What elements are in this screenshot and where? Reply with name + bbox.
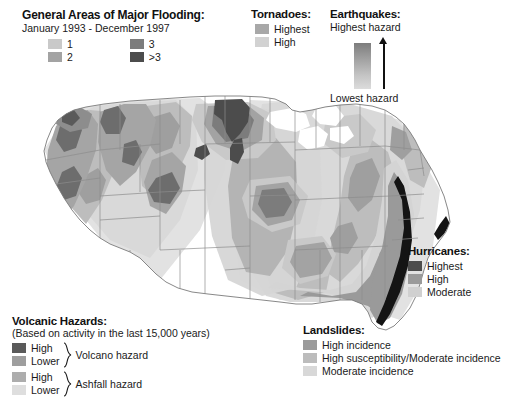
earthquakes-up-arrow-icon xyxy=(378,37,389,89)
flooding-legend-item-2: 2 xyxy=(48,51,73,63)
flooding-label-2: 2 xyxy=(67,52,73,63)
hurricanes-label-highest: Highest xyxy=(427,261,463,272)
volcano-hazard-swatch-lower xyxy=(12,356,26,366)
earthquakes-legend-title: Earthquakes: xyxy=(330,8,401,20)
hurricanes-legend-title: Hurricanes: xyxy=(408,245,471,257)
hurricanes-swatch-high xyxy=(408,274,422,284)
flooding-legend-title: General Areas of Major Flooding: xyxy=(22,8,205,22)
earthquakes-lowest-label: Lowest hazard xyxy=(330,92,401,104)
tornadoes-label-highest: Highest xyxy=(274,24,310,35)
hurricanes-label-high: High xyxy=(427,274,449,285)
landslides-legend-item-moderate-incidence: Moderate incidence xyxy=(303,365,501,377)
flooding-legend: General Areas of Major Flooding: January… xyxy=(22,8,205,64)
flooding-legend-subtitle: January 1993 - December 1997 xyxy=(22,22,205,34)
volcanic-hazards-legend: Volcanic Hazards: (Based on activity in … xyxy=(12,315,210,397)
landslides-label-moderate-incidence: Moderate incidence xyxy=(322,366,414,377)
ashfall-hazard-item-lower: Lower xyxy=(12,384,60,396)
flooding-legend-item-1: 1 xyxy=(48,38,73,50)
ashfall-hazard-swatch-lower xyxy=(12,385,26,395)
hurricanes-legend-item-highest: Highest xyxy=(408,260,471,272)
ashfall-hazard-label-lower: Lower xyxy=(31,385,60,396)
volcano-hazard-group-label: Volcano hazard xyxy=(76,349,148,361)
volcano-hazard-swatch-high xyxy=(12,343,26,353)
volcano-hazard-brace-icon xyxy=(63,342,72,368)
landslides-legend: Landslides: High incidence High suscepti… xyxy=(303,324,501,378)
volcano-hazard-item-high: High xyxy=(12,342,60,354)
ashfall-hazard-label-high: High xyxy=(31,372,53,383)
flooding-legend-item-4: >3 xyxy=(130,51,161,63)
flooding-swatch-4 xyxy=(130,52,144,62)
flooding-swatch-column-right: 3 >3 xyxy=(130,38,161,64)
ashfall-hazard-item-high: High xyxy=(12,371,60,383)
ashfall-hazard-swatch-high xyxy=(12,372,26,382)
flooding-swatch-2 xyxy=(48,52,62,62)
landslides-label-high-susceptibility: High susceptibility/Moderate incidence xyxy=(322,353,501,364)
hurricanes-legend-item-high: High xyxy=(408,273,471,285)
earthquakes-gradient-bar xyxy=(354,43,371,89)
landslides-legend-title: Landslides: xyxy=(303,324,501,336)
ashfall-hazard-group-label: Ashfall hazard xyxy=(76,378,143,390)
ashfall-hazard-group: High Lower Ashfall hazard xyxy=(12,371,210,397)
tornadoes-legend: Tornadoes: Highest High xyxy=(251,8,311,49)
volcano-hazard-label-high: High xyxy=(31,343,53,354)
volcano-hazard-label-lower: Lower xyxy=(31,356,60,367)
earthquakes-gradient-wrapper xyxy=(354,37,401,89)
hurricanes-swatch-moderate xyxy=(408,287,422,297)
flooding-swatch-column-left: 1 2 xyxy=(48,38,73,64)
landslides-swatch-moderate-incidence xyxy=(303,366,317,376)
flooding-label-3: 3 xyxy=(149,39,155,50)
earthquakes-legend: Earthquakes: Highest hazard Lowest hazar… xyxy=(330,8,401,104)
landslides-swatch-high-susceptibility xyxy=(303,353,317,363)
landslides-legend-item-high-susceptibility: High susceptibility/Moderate incidence xyxy=(303,352,501,364)
volcanic-hazards-legend-title: Volcanic Hazards: xyxy=(12,315,210,327)
earthquakes-highest-label: Highest hazard xyxy=(330,21,401,33)
tornadoes-legend-item-high: High xyxy=(255,36,311,48)
flooding-label-1: 1 xyxy=(67,39,73,50)
flooding-swatch-grid: 1 2 3 >3 xyxy=(48,38,205,64)
flooding-swatch-3 xyxy=(130,39,144,49)
landslides-label-high-incidence: High incidence xyxy=(322,340,391,351)
tornadoes-swatch-high xyxy=(255,37,269,47)
volcanic-hazards-legend-subtitle: (Based on activity in the last 15,000 ye… xyxy=(12,327,210,339)
tornadoes-legend-title: Tornadoes: xyxy=(251,8,311,20)
flooding-swatch-1 xyxy=(48,39,62,49)
landslides-legend-item-high-incidence: High incidence xyxy=(303,339,501,351)
ashfall-hazard-brace-icon xyxy=(63,371,72,397)
flooding-legend-item-3: 3 xyxy=(130,38,161,50)
tornadoes-swatch-highest xyxy=(255,24,269,34)
landslides-swatch-high-incidence xyxy=(303,340,317,350)
tornadoes-legend-item-highest: Highest xyxy=(255,23,311,35)
hurricanes-legend-item-moderate: Moderate xyxy=(408,286,471,298)
hurricanes-legend: Hurricanes: Highest High Moderate xyxy=(408,245,471,299)
volcano-hazard-group: High Lower Volcano hazard xyxy=(12,342,210,368)
hurricanes-swatch-highest xyxy=(408,261,422,271)
hurricanes-label-moderate: Moderate xyxy=(427,287,471,298)
flooding-label-4: >3 xyxy=(149,52,161,63)
volcano-hazard-item-lower: Lower xyxy=(12,355,60,367)
tornadoes-label-high: High xyxy=(274,37,296,48)
